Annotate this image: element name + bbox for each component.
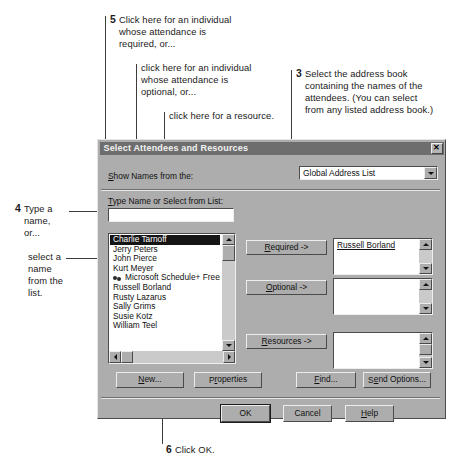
chevron-up-icon bbox=[423, 283, 429, 286]
chevron-down-icon bbox=[423, 307, 429, 310]
chevron-down-icon bbox=[423, 361, 429, 364]
search-input[interactable] bbox=[108, 208, 234, 222]
select-attendees-dialog: Select Attendees and Resources ✕ Show Na… bbox=[97, 139, 446, 419]
show-names-label: Show Names from the: bbox=[108, 171, 193, 181]
chevron-up-icon bbox=[423, 337, 429, 340]
dialog-titlebar[interactable]: Select Attendees and Resources ✕ bbox=[100, 142, 444, 155]
divider-top bbox=[101, 189, 440, 191]
list-item[interactable]: William Teel bbox=[110, 321, 220, 331]
new-button-label: New... bbox=[138, 375, 161, 385]
ok-button[interactable]: OK bbox=[221, 405, 270, 422]
chevron-left-icon bbox=[114, 354, 117, 360]
annotation-step-3-text: Select the address book containing the n… bbox=[305, 68, 433, 116]
list-item[interactable]: Microsoft Schedule+ Free/Bus bbox=[110, 273, 220, 283]
scroll-track[interactable] bbox=[419, 250, 432, 263]
help-button-label: Help bbox=[361, 408, 378, 418]
cancel-button[interactable]: Cancel bbox=[283, 405, 332, 422]
annotation-step-5: 5 Click here for an individual whose att… bbox=[110, 14, 270, 50]
new-button[interactable]: New... bbox=[116, 372, 184, 388]
find-button[interactable]: Find... bbox=[296, 372, 356, 388]
annotation-step-4-number: 4 bbox=[15, 203, 21, 215]
cancel-button-label: Cancel bbox=[294, 408, 320, 418]
annotation-step-3-number: 3 bbox=[296, 68, 302, 80]
chevron-down-icon bbox=[423, 267, 429, 270]
annotation-step-5b: click here for an individual whose atten… bbox=[141, 62, 301, 98]
dialog-title: Select Attendees and Resources bbox=[104, 143, 431, 153]
divider-bottom bbox=[101, 397, 440, 399]
type-name-label: Type Name or Select from List: bbox=[108, 196, 223, 206]
close-icon-glyph: ✕ bbox=[433, 144, 440, 152]
required-vertical-scrollbar[interactable] bbox=[419, 239, 432, 274]
scroll-left-button[interactable] bbox=[109, 351, 121, 363]
name-list-vertical-scrollbar[interactable] bbox=[222, 234, 235, 351]
required-listbox[interactable]: Russell Borland bbox=[333, 238, 433, 275]
scroll-down-button[interactable] bbox=[222, 340, 235, 351]
annotation-step-6: 6 Click OK. bbox=[166, 444, 276, 456]
hscroll-track[interactable] bbox=[121, 351, 223, 363]
name-listbox[interactable]: Charlie Tarnoff Jerry Peters John Pierce… bbox=[108, 233, 236, 364]
scroll-right-button[interactable] bbox=[223, 351, 235, 363]
show-names-label-rest: how Names from the: bbox=[114, 171, 194, 181]
annotation-step-5b-line2: whose attendance is bbox=[141, 74, 228, 85]
resources-vertical-scrollbar[interactable] bbox=[419, 333, 432, 368]
group-icon bbox=[113, 275, 123, 282]
properties-button-label: Properties bbox=[209, 375, 247, 385]
resources-button-label: Resources -> bbox=[261, 336, 311, 346]
list-item[interactable]: Susie Kotz bbox=[110, 312, 220, 322]
scroll-up-button[interactable] bbox=[419, 333, 432, 344]
chevron-up-icon bbox=[226, 238, 232, 241]
optional-button-label: Optional -> bbox=[266, 282, 307, 292]
resources-listbox[interactable] bbox=[333, 332, 433, 369]
leader-line-step-6 bbox=[162, 418, 163, 444]
list-item[interactable]: Charlie Tarnoff bbox=[110, 235, 220, 245]
scroll-down-button[interactable] bbox=[419, 263, 432, 274]
list-item[interactable]: Kurt Meyer bbox=[110, 264, 220, 274]
annotation-step-6-text: Click OK. bbox=[175, 444, 215, 456]
scroll-track[interactable] bbox=[222, 245, 235, 340]
scroll-thumb[interactable] bbox=[222, 245, 235, 261]
scroll-up-button[interactable] bbox=[222, 234, 235, 245]
annotation-step-4-text: Type a name, or... bbox=[24, 203, 53, 239]
list-item[interactable]: Rusty Lazarus bbox=[110, 293, 220, 303]
annotation-step-5-number: 5 bbox=[110, 14, 116, 26]
annotation-step-3: 3 Select the address book containing the… bbox=[296, 68, 465, 116]
list-item[interactable]: Sally Grims bbox=[110, 302, 220, 312]
list-item[interactable]: Russell Borland bbox=[110, 283, 220, 293]
hscroll-thumb[interactable] bbox=[121, 351, 133, 363]
name-list-horizontal-scrollbar[interactable] bbox=[109, 351, 235, 363]
send-options-button[interactable]: Send Options... bbox=[363, 372, 431, 388]
type-name-label-rest: ype Name or Select from List: bbox=[113, 196, 223, 206]
scroll-up-button[interactable] bbox=[419, 239, 432, 250]
name-listbox-frame: Charlie Tarnoff Jerry Peters John Pierce… bbox=[108, 233, 236, 364]
name-list-items: Charlie Tarnoff Jerry Peters John Pierce… bbox=[110, 235, 220, 331]
scroll-track[interactable] bbox=[419, 344, 432, 357]
ok-button-label: OK bbox=[239, 408, 251, 418]
scroll-down-button[interactable] bbox=[419, 303, 432, 314]
annotation-step-5c-line1: click here for a resource. bbox=[169, 110, 274, 121]
optional-listbox[interactable] bbox=[333, 278, 433, 315]
required-button[interactable]: Required -> bbox=[246, 240, 327, 255]
required-recipient[interactable]: Russell Borland bbox=[334, 239, 432, 250]
resources-button[interactable]: Resources -> bbox=[246, 334, 327, 349]
annotation-step-4: 4 Type a name, or... bbox=[15, 203, 85, 239]
chevron-up-icon bbox=[423, 243, 429, 246]
optional-button[interactable]: Optional -> bbox=[246, 280, 327, 295]
list-item[interactable]: John Pierce bbox=[110, 254, 220, 264]
address-book-selected-value: Global Address List bbox=[300, 168, 424, 178]
scroll-thumb[interactable] bbox=[419, 344, 432, 355]
properties-button[interactable]: Properties bbox=[194, 372, 262, 388]
close-icon[interactable]: ✕ bbox=[431, 143, 443, 154]
annotation-step-4b-line4: list. bbox=[28, 287, 43, 298]
required-listbox-frame: Russell Borland bbox=[333, 238, 433, 275]
annotation-step-4b-line3: from the bbox=[28, 275, 63, 286]
scroll-down-button[interactable] bbox=[419, 357, 432, 368]
help-button[interactable]: Help bbox=[345, 405, 394, 422]
chevron-down-icon[interactable] bbox=[424, 167, 437, 179]
annotation-step-4b-line1: select a bbox=[28, 251, 61, 262]
optional-vertical-scrollbar[interactable] bbox=[419, 279, 432, 314]
scroll-up-button[interactable] bbox=[419, 279, 432, 290]
scroll-track[interactable] bbox=[419, 290, 432, 303]
chevron-down-icon bbox=[226, 344, 232, 347]
address-book-combo[interactable]: Global Address List bbox=[299, 166, 438, 180]
list-item[interactable]: Jerry Peters bbox=[110, 245, 220, 255]
